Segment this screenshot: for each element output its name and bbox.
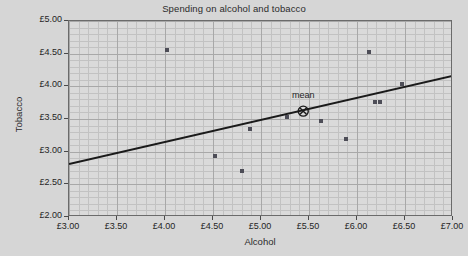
mean-marker-label: mean [292, 90, 315, 100]
mean-marker-group: mean [69, 21, 452, 216]
x-tick-mark [452, 216, 453, 220]
y-tick-label: £4.50 [22, 47, 62, 57]
x-tick-mark [308, 216, 309, 220]
x-tick-label: £6.50 [380, 221, 428, 231]
x-tick-label: £5.50 [284, 221, 332, 231]
x-tick-mark [116, 216, 117, 220]
y-tick-label: £2.00 [22, 210, 62, 220]
y-tick-label: £3.00 [22, 145, 62, 155]
x-tick-mark [404, 216, 405, 220]
y-tick-label: £4.00 [22, 79, 62, 89]
x-tick-mark [260, 216, 261, 220]
chart-title: Spending on alcohol and tobacco [0, 3, 468, 14]
x-tick-mark [356, 216, 357, 220]
x-tick-label: £7.00 [428, 221, 468, 231]
x-tick-label: £6.00 [332, 221, 380, 231]
x-tick-label: £5.00 [236, 221, 284, 231]
y-tick-label: £2.50 [22, 177, 62, 187]
y-tick-label: £5.00 [22, 14, 62, 24]
x-tick-label: £4.00 [140, 221, 188, 231]
plot-area: mean [68, 20, 452, 216]
x-axis-label: Alcohol [68, 236, 452, 247]
x-tick-label: £4.50 [188, 221, 236, 231]
chart-container: Spending on alcohol and tobacco Tobacco … [0, 0, 468, 256]
x-tick-label: £3.50 [92, 221, 140, 231]
x-tick-mark [68, 216, 69, 220]
x-tick-mark [212, 216, 213, 220]
x-tick-label: £3.00 [44, 221, 92, 231]
y-tick-label: £3.50 [22, 112, 62, 122]
x-tick-mark [164, 216, 165, 220]
